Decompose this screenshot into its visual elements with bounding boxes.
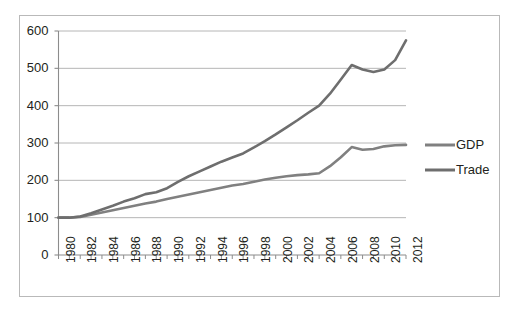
- x-tick-label: 1988: [151, 236, 163, 263]
- x-tick-label: 1992: [195, 236, 207, 263]
- x-tick-label: 1982: [86, 236, 98, 263]
- x-tick-label: 2004: [325, 236, 337, 263]
- x-tick-label: 2002: [303, 236, 315, 263]
- series-lines-group: [59, 40, 407, 217]
- x-tick-label: 2012: [412, 236, 424, 263]
- y-tick-label: 500: [13, 61, 49, 74]
- legend-swatches-group: [425, 145, 455, 170]
- series-line-trade: [59, 40, 407, 217]
- y-tick-label: 0: [13, 248, 49, 261]
- y-tick-label: 300: [13, 136, 49, 149]
- x-tick-label: 2000: [282, 236, 294, 263]
- y-tick-label: 100: [13, 211, 49, 224]
- x-tick-label: 1990: [173, 236, 185, 263]
- x-tick-label: 2008: [369, 236, 381, 263]
- x-tick-label: 1984: [108, 236, 120, 263]
- y-tick-label: 200: [13, 173, 49, 186]
- x-tick-label: 1996: [238, 236, 250, 263]
- legend-label-gdp: GDP: [456, 138, 484, 151]
- x-tick-label: 1980: [65, 236, 77, 263]
- x-tick-label: 1994: [217, 236, 229, 263]
- legend-label-trade: Trade: [456, 163, 489, 176]
- gridlines-group: [59, 31, 407, 218]
- chart-container: 0100200300400500600 19801982198419861988…: [0, 0, 517, 315]
- y-tick-label: 400: [13, 99, 49, 112]
- y-tick-marks-group: [55, 31, 59, 255]
- x-tick-label: 2010: [390, 236, 402, 263]
- chart-plot-area: [0, 0, 517, 315]
- x-tick-label: 1986: [130, 236, 142, 263]
- x-tick-label: 2006: [347, 236, 359, 263]
- x-tick-label: 1998: [260, 236, 272, 263]
- y-tick-label: 600: [13, 24, 49, 37]
